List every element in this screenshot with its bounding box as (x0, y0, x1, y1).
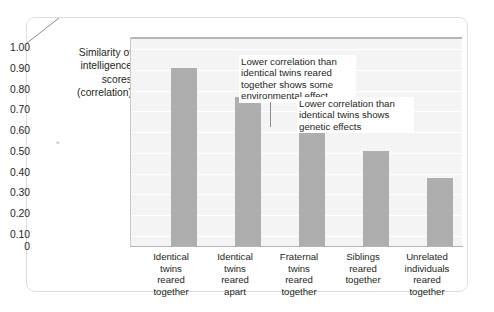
annotation-line: Lower correlation than (241, 56, 353, 67)
bar (363, 151, 389, 246)
y-axis-title-line: intelligence (33, 59, 132, 72)
category-label-line: together (394, 286, 460, 298)
y-axis-title-line: scores (33, 73, 132, 86)
category-label-line: together (266, 286, 332, 298)
category-label: Fraternal twins reared together (266, 251, 332, 297)
category-label-line: reared (394, 274, 460, 286)
y-axis-line (130, 37, 131, 247)
category-label-line: together (138, 286, 204, 298)
category-label-line: twins (138, 263, 204, 275)
annotation-line: Lower correlation than (299, 98, 411, 109)
category-label-line: individuals (394, 263, 460, 275)
category-label-line: twins (266, 263, 332, 275)
category-label: Siblings reared together (330, 251, 396, 286)
category-label: Identical twins reared apart (202, 251, 268, 297)
annotation-leader-line-environmental (270, 102, 271, 127)
annotation-line: genetic effects (299, 121, 411, 132)
category-label-line: Identical (138, 251, 204, 263)
y-tick-label: 0.40 (10, 168, 30, 178)
y-tick-label: 1.00 (10, 43, 30, 53)
category-label-line: Identical (202, 251, 268, 263)
y-tick-label: 0.90 (10, 64, 30, 74)
y-tick-label: 0.20 (10, 209, 30, 219)
stray-asterisk-mark: * (56, 140, 60, 149)
x-axis-line (130, 246, 463, 247)
annotation-environmental-effect: Lower correlation than identical twins r… (239, 55, 356, 103)
gridline (130, 49, 462, 50)
category-label-line: Siblings (330, 251, 396, 263)
chart-card: Similarity of intelligence scores (corre… (26, 17, 468, 292)
category-label-line: reared (202, 274, 268, 286)
category-label-line: reared (138, 274, 204, 286)
y-tick-label: 0.50 (10, 147, 30, 157)
y-tick-label: 0.70 (10, 105, 30, 115)
annotation-line: identical twins shows (299, 109, 411, 120)
bar (299, 122, 325, 246)
category-label-line: apart (202, 286, 268, 298)
category-label-line: reared (330, 263, 396, 275)
y-axis-title-line: (correlation) (33, 86, 132, 99)
y-tick-label: 0 (24, 242, 30, 252)
annotation-leader-line-genetic (27, 18, 59, 43)
bar (235, 97, 261, 246)
annotation-line: identical twins reared (241, 67, 353, 78)
y-tick-label: 0.10 (10, 230, 30, 240)
category-label-line: Unrelated (394, 251, 460, 263)
y-tick-label: 0.80 (10, 85, 30, 95)
bar (427, 178, 453, 246)
y-tick-label: 0.30 (10, 188, 30, 198)
y-axis-title: Similarity of intelligence scores (corre… (33, 46, 132, 99)
category-label-line: twins (202, 263, 268, 275)
category-label-line: reared (266, 274, 332, 286)
category-label: Unrelated individuals reared together (394, 251, 460, 297)
category-label: Identical twins reared together (138, 251, 204, 297)
bar (171, 68, 197, 246)
annotation-genetic-effects: Lower correlation than identical twins s… (297, 97, 414, 133)
y-tick-label: 0.60 (10, 126, 30, 136)
y-axis-title-line: Similarity of (33, 46, 132, 59)
annotation-line: together shows some (241, 79, 353, 90)
category-label-line: Fraternal (266, 251, 332, 263)
category-label-line: together (330, 274, 396, 286)
